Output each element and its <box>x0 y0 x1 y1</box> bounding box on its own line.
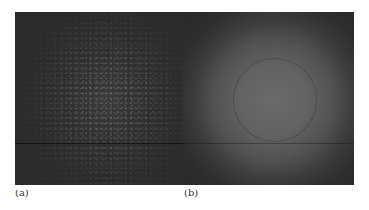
dotted-roi-circle <box>233 58 317 142</box>
panel-label-a: (a) <box>15 187 29 199</box>
speckle-pattern <box>15 12 183 185</box>
figure <box>15 12 354 185</box>
horizontal-artifact-line <box>183 143 354 144</box>
panel-label-b: (b) <box>184 187 198 199</box>
panel-b-intensity-image <box>183 12 354 185</box>
horizontal-artifact-line <box>15 143 183 144</box>
panel-a-speckle-image <box>15 12 183 185</box>
